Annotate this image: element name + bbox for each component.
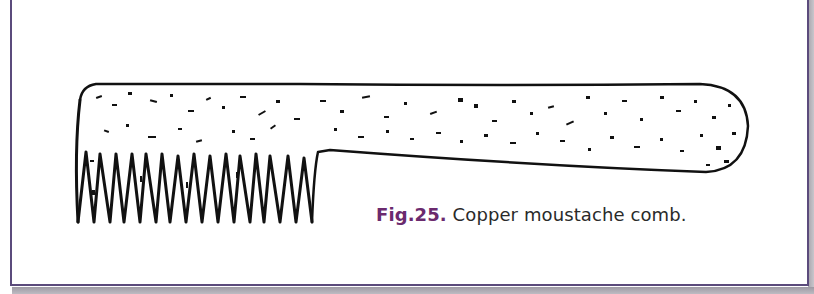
comb-teeth: [78, 152, 312, 222]
figure-caption: Fig.25. Copper moustache comb.: [376, 204, 687, 225]
speckle-texture: [90, 92, 736, 195]
figure-caption-text: Copper moustache comb.: [447, 204, 687, 225]
comb-illustration: [0, 0, 814, 294]
figure-number: Fig.25.: [376, 204, 447, 225]
comb-outline: [80, 84, 748, 222]
